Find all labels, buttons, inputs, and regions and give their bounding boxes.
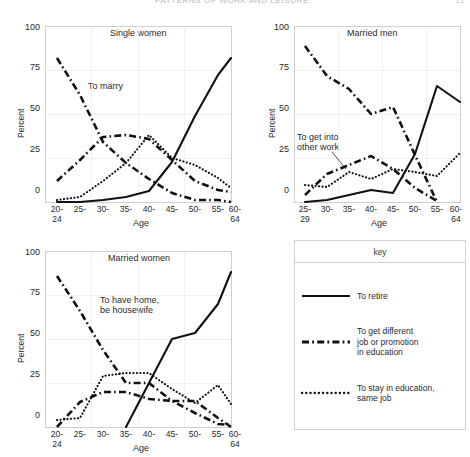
y-tick-mw-50: 50 <box>16 328 40 338</box>
running-title: PATTERNS OF WORK AND LEISURE <box>155 0 309 5</box>
y-tick-0: 0 <box>16 185 40 195</box>
y-tick-men-100: 100 <box>265 22 289 32</box>
chart-panel-single-women: Percent 100 75 50 25 0 Single women To m… <box>0 8 250 233</box>
plot-area-married-women <box>45 245 255 445</box>
y-tick-75: 75 <box>16 62 40 72</box>
x-tick-men-60-64: 60- 64 <box>443 204 469 224</box>
annotation-leader-line <box>332 152 346 169</box>
x-tick-60-64: 60- 64 <box>222 204 248 224</box>
x-axis-label: Age <box>133 218 149 228</box>
series-to-retire <box>57 58 231 202</box>
y-axis-label-mw: Percent <box>16 334 26 363</box>
y-tick-mw-0: 0 <box>16 410 40 420</box>
chart-panel-married-women: Percent 100 75 50 25 0 Married women To … <box>0 233 250 457</box>
y-tick-100: 100 <box>16 22 40 32</box>
y-tick-mw-100: 100 <box>16 247 40 257</box>
legend-title: key <box>295 241 465 263</box>
legend-label-to-get-different-job: To get different job or promotion in edu… <box>357 326 418 358</box>
y-tick-50: 50 <box>16 103 40 113</box>
plot-area-married-men <box>294 20 470 220</box>
solid-line-icon <box>300 291 352 301</box>
page-number: 13 <box>455 0 464 5</box>
legend-row-to-stay-in-education: To stay in education, same job <box>295 381 465 405</box>
y-tick-men-50: 50 <box>265 103 289 113</box>
legend-label-to-retire: To retire <box>357 291 388 302</box>
legend-sample-dashdot <box>295 337 357 347</box>
y-axis-label: Percent <box>16 109 26 138</box>
y-tick-25: 25 <box>16 144 40 154</box>
legend-sample-dotted <box>295 388 357 398</box>
series-to-get-different-job <box>57 135 231 192</box>
series-to-stay-in-education <box>57 135 231 200</box>
series-to-marry <box>57 58 231 202</box>
y-axis-label-men: Percent <box>267 109 277 138</box>
running-header: PATTERNS OF WORK AND LEISURE 13 <box>0 0 470 7</box>
legend-row-to-retire: To retire <box>295 285 465 307</box>
y-tick-men-0: 0 <box>265 185 289 195</box>
y-tick-men-25: 25 <box>265 144 289 154</box>
x-axis-label-mw: Age <box>133 443 149 453</box>
legend: key To retire To get different job or pr… <box>294 240 466 430</box>
series-to-get-into-other-work <box>305 156 437 201</box>
legend-label-to-stay-in-education: To stay in education, same job <box>357 383 435 404</box>
dash-dot-line-icon <box>300 337 352 347</box>
legend-row-to-get-different-job: To get different job or promotion in edu… <box>295 325 465 359</box>
x-axis-label-men: Age <box>371 218 387 228</box>
dotted-line-icon <box>300 388 352 398</box>
series-main-decline-men <box>305 46 437 202</box>
legend-sample-solid <box>295 291 357 301</box>
plot-area-single-women <box>45 20 255 220</box>
chart-panel-married-men: Percent 100 75 50 25 0 Married men To ge… <box>253 8 470 233</box>
series-to-have-home <box>57 276 231 427</box>
y-tick-mw-25: 25 <box>16 369 40 379</box>
x-tick-mw-60-64: 60- 64 <box>222 429 248 449</box>
y-tick-mw-75: 75 <box>16 287 40 297</box>
y-tick-men-75: 75 <box>265 62 289 72</box>
